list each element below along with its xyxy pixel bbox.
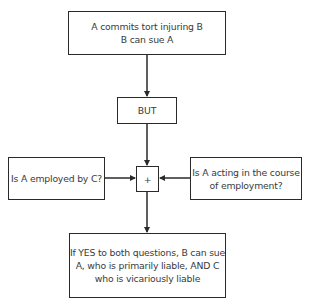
result-box: If YES to both questions, B can sue A, w… [69, 233, 226, 298]
result-line-2: A, who is primarily liable, AND C [76, 259, 220, 272]
course-line-2: of employment? [210, 179, 283, 192]
tort-line-1: A commits tort injuring B [91, 20, 203, 33]
course-box: Is A acting in the course of employment? [190, 157, 302, 200]
plus-icon: + [144, 173, 152, 186]
course-line-1: Is A acting in the course [192, 166, 299, 179]
tort-line-2: B can sue A [121, 33, 174, 46]
result-line-1: If YES to both questions, B can sue [70, 246, 225, 259]
join-box: + [136, 166, 159, 192]
but-label: BUT [138, 104, 156, 117]
employed-box: Is A employed by C? [8, 157, 105, 200]
but-box: BUT [117, 97, 177, 124]
employed-label: Is A employed by C? [11, 172, 102, 185]
result-line-3: who is vicariously liable [95, 272, 200, 285]
tort-box: A commits tort injuring B B can sue A [68, 11, 226, 55]
